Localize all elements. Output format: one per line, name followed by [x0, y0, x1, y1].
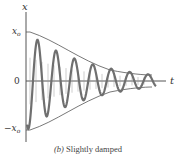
- caption-text: Slightly damped: [66, 144, 123, 154]
- pos-amp-sub: o: [17, 30, 21, 37]
- neg-amp-main: −x: [4, 123, 17, 133]
- caption-prefix: (b): [54, 144, 64, 154]
- upper-envelope: [26, 32, 152, 75]
- neg-amp-sub: o: [17, 127, 21, 134]
- zero-label: 0: [14, 76, 20, 86]
- damped-wave: [27, 40, 156, 129]
- neg-amplitude-label: −xo: [4, 123, 21, 134]
- x-axis-label: t: [170, 75, 175, 86]
- y-axis-label: x: [22, 1, 28, 12]
- pos-amplitude-label: xo: [12, 26, 21, 37]
- caption: (b) Slightly damped: [54, 144, 123, 154]
- damped-oscillation-diagram: x t 0 xo −xo (b) Slightly damped: [0, 0, 184, 159]
